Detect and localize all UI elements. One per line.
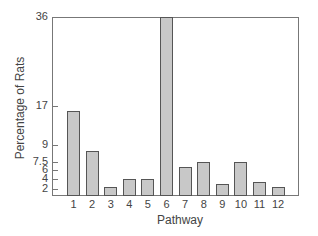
x-tick-label: 7 <box>182 198 188 210</box>
bar-chart: Percentage of Rats Pathway 361797.5642 1… <box>0 0 318 236</box>
bar-pathway-11 <box>253 182 266 197</box>
bar-pathway-12 <box>272 187 285 197</box>
x-tick-label: 11 <box>254 198 265 210</box>
x-tick-label: 6 <box>163 198 169 210</box>
bar-pathway-2 <box>86 151 99 196</box>
y-tick-label: 17 <box>22 99 48 111</box>
x-tick-label: 2 <box>89 198 95 210</box>
bar-pathway-5 <box>141 179 154 196</box>
y-tick-mark <box>52 162 58 163</box>
x-tick-label: 12 <box>272 198 284 210</box>
y-tick-label: 2 <box>22 182 48 194</box>
y-tick-mark <box>52 179 58 180</box>
y-tick-mark <box>52 170 58 171</box>
x-axis-label: Pathway <box>157 213 203 227</box>
y-tick-label: 36 <box>22 10 48 22</box>
x-tick-label: 9 <box>219 198 225 210</box>
x-tick-label: 3 <box>108 198 114 210</box>
x-tick-label: 1 <box>70 198 76 210</box>
bar-pathway-1 <box>67 111 80 196</box>
x-tick-label: 8 <box>201 198 207 210</box>
y-tick-mark <box>52 106 58 107</box>
y-tick-mark <box>52 189 58 190</box>
bar-pathway-7 <box>179 167 192 196</box>
y-tick-label: 9 <box>22 138 48 150</box>
x-tick-label: 5 <box>145 198 151 210</box>
bar-pathway-6 <box>160 17 173 196</box>
y-tick-mark <box>52 145 58 146</box>
bar-pathway-3 <box>104 187 117 197</box>
x-tick-label: 4 <box>126 198 132 210</box>
x-tick-label: 10 <box>235 198 247 210</box>
bar-pathway-10 <box>234 162 247 196</box>
bar-pathway-8 <box>197 162 210 196</box>
bar-pathway-4 <box>123 179 136 196</box>
bar-pathway-9 <box>216 184 229 196</box>
